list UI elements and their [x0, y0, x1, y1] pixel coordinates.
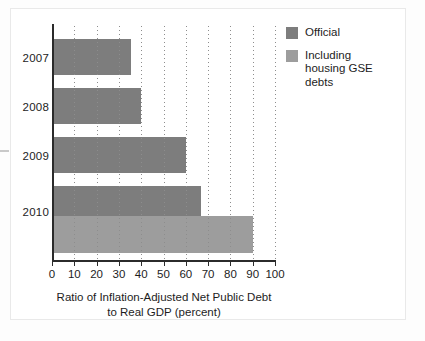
bar-2010-including-housing-gse-debts [52, 216, 253, 253]
x-tick-label-80: 80 [224, 268, 237, 280]
x-tick-70 [208, 261, 209, 266]
gridline-30 [119, 26, 120, 260]
chart-figure: 2007 2008 2009 2010 0 10 20 30 40 50 60 … [0, 0, 425, 341]
chart-legend: Official Including housing GSE debts [286, 26, 406, 98]
x-tick-label-70: 70 [202, 268, 215, 280]
x-tick-10 [74, 261, 75, 266]
x-tick-label-0: 0 [49, 268, 55, 280]
legend-item-official: Official [286, 26, 406, 40]
x-axis-title: Ratio of Inflation-Adjusted Net Public D… [28, 290, 300, 320]
x-tick-50 [164, 261, 165, 266]
gridline-70 [208, 26, 209, 260]
x-tick-label-20: 20 [90, 268, 103, 280]
x-tick-60 [186, 261, 187, 266]
x-axis-title-line-2: to Real GDP (percent) [28, 305, 300, 320]
x-tick-label-100: 100 [265, 268, 284, 280]
y-axis-label-2008: 2008 [3, 101, 49, 113]
x-tick-80 [230, 261, 231, 266]
x-tick-label-30: 30 [112, 268, 125, 280]
gridline-100 [275, 26, 276, 260]
gridline-20 [97, 26, 98, 260]
gridline-60 [186, 26, 187, 260]
legend-label-including-housing-gse-debts: Including housing GSE debts [305, 49, 379, 90]
legend-swatch-official-icon [286, 27, 298, 39]
x-tick-0 [52, 261, 53, 266]
x-tick-90 [253, 261, 254, 266]
x-tick-30 [119, 261, 120, 266]
x-tick-20 [97, 261, 98, 266]
y-axis-label-2010: 2010 [3, 206, 49, 218]
x-tick-label-40: 40 [135, 268, 148, 280]
gridline-90 [253, 26, 254, 260]
y-axis-label-2009: 2009 [3, 150, 49, 162]
x-axis-title-line-1: Ratio of Inflation-Adjusted Net Public D… [28, 290, 300, 305]
x-tick-label-90: 90 [246, 268, 259, 280]
x-tick-100 [275, 261, 276, 266]
y-axis-line [52, 24, 54, 261]
legend-label-official: Official [305, 26, 340, 40]
legend-swatch-gse-icon [286, 50, 298, 62]
gridline-40 [141, 26, 142, 260]
gridline-10 [74, 26, 75, 260]
legend-item-including-housing-gse-debts: Including housing GSE debts [286, 49, 406, 90]
gridline-50 [164, 26, 165, 260]
x-tick-40 [141, 261, 142, 266]
x-tick-label-60: 60 [179, 268, 192, 280]
x-tick-label-10: 10 [68, 268, 81, 280]
y-axis-label-2007: 2007 [3, 52, 49, 64]
x-tick-label-50: 50 [157, 268, 170, 280]
gridline-80 [230, 26, 231, 260]
